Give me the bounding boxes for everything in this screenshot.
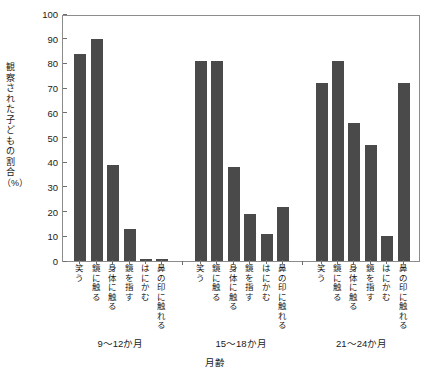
x-tick-label: 鏡を指す [366, 264, 377, 302]
bar [107, 165, 119, 261]
bar [277, 207, 289, 261]
group-label: 15〜18か月 [215, 336, 266, 350]
y-tick-label: 10 [47, 231, 58, 242]
x-tick-label: 鏡を指す [125, 264, 136, 302]
bar [332, 61, 344, 261]
category-labels: 笑う鏡に触る身体に触る鏡を指すはにかむ鼻の印に触れる笑う鏡に触る身体に触る鏡を指… [62, 264, 420, 330]
y-tick-label: 60 [47, 107, 58, 118]
bar [244, 214, 256, 261]
x-tick-label: 笑う [317, 264, 328, 283]
bar [398, 83, 410, 261]
x-tick-label: はにかむ [262, 264, 273, 302]
x-tick-label: はにかむ [382, 264, 393, 302]
bar [365, 145, 377, 261]
bar [228, 167, 240, 261]
y-tick-label: 20 [47, 206, 58, 217]
x-tick-label: 身体に触る [108, 264, 119, 312]
group-label: 9〜12か月 [97, 336, 143, 350]
bar-chart: 観察された子どもの割合（%） 0102030405060708090100 笑う… [0, 0, 430, 375]
x-tick-label: 鏡を指す [245, 264, 256, 302]
bar [261, 234, 273, 261]
plot-area: 0102030405060708090100 [62, 15, 420, 262]
x-tick-label: 鏡に触る [333, 264, 344, 302]
bar [316, 83, 328, 261]
y-tick-label: 40 [47, 157, 58, 168]
group-labels: 9〜12か月15〜18か月21〜24か月 [62, 336, 420, 350]
bar [195, 61, 207, 261]
x-tick-label: 鼻の印に触れる [399, 264, 410, 331]
group-label: 21〜24か月 [336, 336, 387, 350]
y-tick-label: 70 [47, 83, 58, 94]
bar [124, 229, 136, 261]
y-axis-title: 観察された子どもの割合（%） [2, 62, 18, 188]
bar [91, 39, 103, 261]
y-tick-label: 0 [53, 256, 58, 267]
x-axis-title: 月齢 [0, 355, 430, 369]
x-tick-label: はにかむ [141, 264, 152, 302]
bar [381, 236, 393, 261]
x-tick-label: 身体に触る [229, 264, 240, 312]
y-tick-label: 90 [47, 33, 58, 44]
bar [348, 123, 360, 261]
x-tick-label: 鏡に触る [212, 264, 223, 302]
bar [74, 54, 86, 261]
y-tick-label: 30 [47, 181, 58, 192]
bars-layer [63, 16, 419, 261]
x-tick-label: 笑う [196, 264, 207, 283]
y-tick-label: 50 [47, 132, 58, 143]
y-tick-label: 100 [42, 9, 58, 20]
x-tick-label: 鼻の印に触れる [278, 264, 289, 331]
x-tick-label: 鼻の印に触れる [157, 264, 168, 331]
y-tick-label: 80 [47, 58, 58, 69]
bar [140, 259, 152, 261]
bar [156, 259, 168, 261]
x-tick-label: 鏡に触る [92, 264, 103, 302]
x-tick-label: 笑う [75, 264, 86, 283]
x-tick-label: 身体に触る [349, 264, 360, 312]
y-tick-mark [63, 14, 67, 15]
bar [211, 61, 223, 261]
